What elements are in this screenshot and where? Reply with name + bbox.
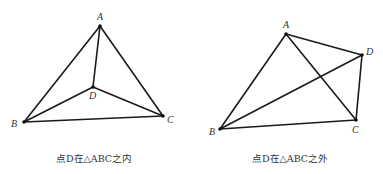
vertex-B xyxy=(22,120,26,124)
segment-BC xyxy=(24,116,163,122)
vertex-A xyxy=(98,24,102,28)
caption-point-outside: 点D在△ABC之外 xyxy=(220,151,360,165)
vertex-C xyxy=(161,114,165,118)
segment-AB xyxy=(220,34,286,129)
vertex-label-C: C xyxy=(352,124,359,135)
figure-point-outside-triangle: ABCD xyxy=(209,19,374,137)
vertex-label-B: B xyxy=(11,118,17,129)
segment-BC xyxy=(220,120,356,129)
segment-AD xyxy=(286,34,362,55)
segment-BD xyxy=(24,87,93,122)
vertex-label-A: A xyxy=(96,11,104,22)
segment-BD xyxy=(220,55,362,129)
vertex-label-B: B xyxy=(209,126,215,137)
vertex-D xyxy=(91,85,95,89)
caption-point-inside: 点D在△ABC之内 xyxy=(24,151,164,165)
segment-AD xyxy=(93,26,100,87)
vertex-label-C: C xyxy=(167,114,174,125)
geometry-diagram: ABCD ABCD xyxy=(0,0,383,174)
vertex-label-D: D xyxy=(88,90,97,101)
vertex-C xyxy=(354,118,358,122)
vertex-label-D: D xyxy=(365,46,374,57)
vertex-label-A: A xyxy=(282,19,290,30)
figure-point-inside-triangle: ABCD xyxy=(11,11,174,129)
vertex-A xyxy=(284,32,288,36)
vertex-D xyxy=(360,53,364,57)
segment-AB xyxy=(24,26,100,122)
vertex-B xyxy=(218,127,222,131)
segment-CD xyxy=(356,55,362,120)
